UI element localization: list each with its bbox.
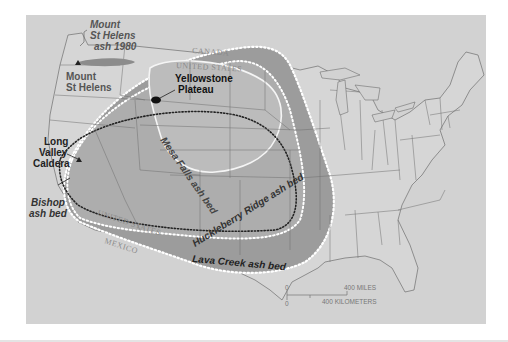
svg-text:Caldera: Caldera: [33, 158, 70, 169]
svg-text:Bishop: Bishop: [31, 197, 65, 208]
svg-text:400 MILES: 400 MILES: [344, 284, 377, 291]
svg-text:Mount: Mount: [90, 19, 121, 30]
svg-text:St Helens: St Helens: [66, 82, 112, 93]
svg-text:Yellowstone: Yellowstone: [175, 73, 233, 84]
label-long-valley: Long Valley Caldera: [33, 136, 70, 169]
yellowstone-plateau-icon: [151, 97, 161, 104]
svg-text:ash bed: ash bed: [29, 208, 68, 219]
label-st-helens-ash: Mount St Helens ash 1980: [90, 19, 137, 52]
svg-text:Plateau: Plateau: [178, 84, 214, 95]
svg-text:Mount: Mount: [66, 71, 97, 82]
svg-text:St Helens: St Helens: [90, 30, 136, 41]
ash-bed-map: Mount St Helens ash 1980 Mount St Helens…: [0, 0, 508, 342]
svg-text:ash 1980: ash 1980: [94, 41, 137, 52]
svg-text:Valley: Valley: [39, 147, 68, 158]
label-bishop: Bishop ash bed: [29, 197, 68, 219]
svg-text:0: 0: [285, 300, 289, 307]
svg-text:400 KILOMETERS: 400 KILOMETERS: [322, 298, 377, 305]
svg-text:Long: Long: [44, 136, 68, 147]
scale-bar: 0 0 400 MILES 400 KILOMETERS: [285, 284, 377, 307]
svg-text:0: 0: [285, 284, 289, 291]
